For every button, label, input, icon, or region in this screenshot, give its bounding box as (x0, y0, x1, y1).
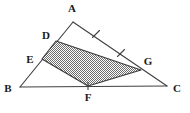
segment-bc (20, 86, 167, 87)
tick-ag-icon (93, 31, 100, 38)
label-d: D (42, 29, 50, 41)
label-e: E (26, 53, 33, 65)
label-a: A (68, 2, 76, 14)
label-b: B (4, 82, 12, 94)
vertex-labels: A B C D E F G (4, 2, 181, 103)
label-c: C (173, 82, 181, 94)
figure-canvas: A B C D E F G (0, 0, 190, 113)
label-f: F (85, 91, 92, 103)
geometry-figure: A B C D E F G (0, 0, 190, 113)
label-g: G (144, 55, 153, 67)
shaded-quadrilateral-dgfe (42, 41, 141, 86)
